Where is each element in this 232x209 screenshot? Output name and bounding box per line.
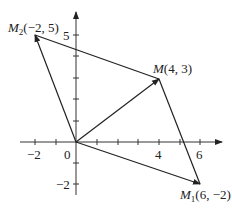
point-m1-coords: (6, −2) bbox=[195, 187, 231, 202]
vector-om1 bbox=[76, 142, 200, 184]
point-label-m: M(4, 3) bbox=[152, 61, 192, 76]
vector-om bbox=[76, 79, 159, 142]
y-axis bbox=[73, 12, 79, 195]
x-axis bbox=[20, 139, 222, 145]
point-label-m1: M1(6, −2) bbox=[179, 187, 231, 204]
segment-m2-m bbox=[35, 35, 159, 79]
x-tick-label-neg2: −2 bbox=[27, 147, 41, 162]
point-m-coords: (4, 3) bbox=[164, 61, 192, 76]
origin-label: 0 bbox=[64, 147, 71, 162]
x-tick-label-4: 4 bbox=[155, 147, 162, 162]
vector-om2 bbox=[35, 35, 76, 142]
y-tick-label-5: 5 bbox=[63, 28, 70, 43]
point-m2-coords: (−2, 5) bbox=[23, 20, 59, 35]
coordinate-diagram: −2 0 4 6 5 −2 M2(−2, 5) M(4, 3) M1(6, −2… bbox=[0, 0, 232, 209]
segment-m-m1 bbox=[159, 79, 200, 184]
x-tick-label-6: 6 bbox=[196, 147, 203, 162]
y-tick-label-neg2: −2 bbox=[56, 177, 70, 192]
point-label-m2: M2(−2, 5) bbox=[7, 20, 59, 37]
